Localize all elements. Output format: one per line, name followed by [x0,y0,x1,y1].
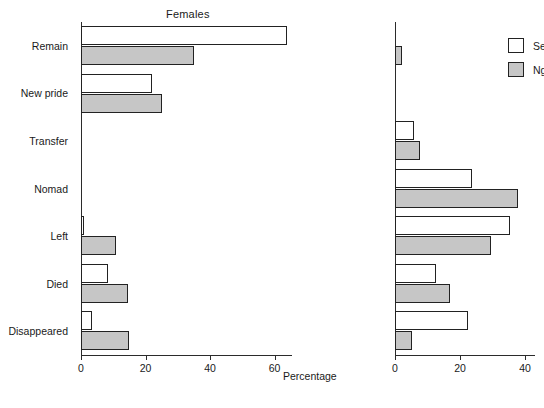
x-axis-title: Percentage [283,370,337,382]
white-square-icon [508,38,524,53]
bar-females-new-pride-ngorongoro [81,94,162,113]
bar-males-left-ngorongoro [395,236,491,255]
category-labels-females: RemainNew prideTransferNomadLeftDiedDisa… [0,22,76,355]
bar-males-transfer-ngorongoro [395,141,420,160]
x-tick-label-males-40: 40 [519,362,531,374]
category-label-disappeared: Disappeared [8,325,68,337]
legend-label-serengeti: Serengeti [533,40,544,52]
category-label-remain: Remain [32,40,68,52]
y-axis-females [81,22,82,355]
x-tick-males-20 [460,355,461,360]
category-label-left: Left [50,230,68,242]
grey-square-icon [508,62,524,77]
x-tick-label-females-0: 0 [78,362,84,374]
bar-females-remain-ngorongoro [81,46,194,65]
x-tick-females-60 [275,355,276,360]
bar-males-left-serengeti [395,216,510,235]
legend-item-ngorongoro: Ngorongoro [508,62,544,77]
x-tick-label-females-20: 20 [140,362,152,374]
bar-males-nomad-serengeti [395,169,472,188]
legend-label-ngorongoro: Ngorongoro [533,64,544,76]
x-tick-males-40 [525,355,526,360]
bar-males-disappeared-serengeti [395,311,468,330]
bar-females-left-ngorongoro [81,236,116,255]
x-tick-females-20 [146,355,147,360]
category-label-died: Died [46,278,68,290]
bar-females-disappeared-ngorongoro [81,331,129,350]
bar-females-died-serengeti [81,264,108,283]
bar-chart-figure: Females RemainNew prideTransferNomadLeft… [0,0,544,408]
bar-males-died-ngorongoro [395,284,450,303]
bar-females-disappeared-serengeti [81,311,92,330]
x-tick-label-males-20: 20 [454,362,466,374]
plot-area-females: 0204060 [81,22,292,355]
category-label-nomad: Nomad [34,183,68,195]
legend-item-serengeti: Serengeti [508,38,544,53]
panel-title-females: Females [166,8,210,20]
bar-females-new-pride-serengeti [81,74,152,93]
x-tick-label-males-0: 0 [392,362,398,374]
panel-females: Females RemainNew prideTransferNomadLeft… [0,0,300,408]
category-label-transfer: Transfer [29,135,68,147]
x-tick-males-0 [395,355,396,360]
x-axis-females [81,355,292,356]
bar-males-died-serengeti [395,264,436,283]
bar-females-left-serengeti [81,216,84,235]
x-tick-label-females-40: 40 [204,362,216,374]
x-tick-females-40 [210,355,211,360]
x-axis-males [395,355,535,356]
bar-females-remain-serengeti [81,26,287,45]
category-label-new-pride: New pride [21,87,68,99]
x-tick-females-0 [81,355,82,360]
bar-males-remain-ngorongoro [395,46,402,65]
bar-males-nomad-ngorongoro [395,189,518,208]
bar-males-disappeared-ngorongoro [395,331,412,350]
x-tick-label-females-60: 60 [269,362,281,374]
bar-males-transfer-serengeti [395,121,414,140]
bar-females-died-ngorongoro [81,284,128,303]
